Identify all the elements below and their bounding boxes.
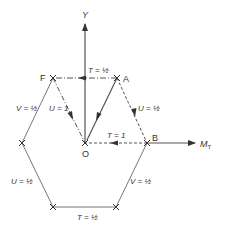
label-b-o: T = 1 bbox=[107, 131, 125, 140]
y-axis-label: Y bbox=[82, 10, 89, 20]
point-label-b: B bbox=[152, 133, 158, 143]
label-right-lower: V = ½ bbox=[130, 177, 151, 186]
arrowhead-a-o bbox=[96, 112, 102, 121]
arrowhead-top bbox=[78, 76, 86, 81]
point-label-a: A bbox=[123, 74, 129, 84]
point-label-f: F bbox=[40, 73, 46, 83]
label-left-upper: V = ½ bbox=[16, 104, 37, 113]
label-right-upper: U = ½ bbox=[138, 104, 160, 113]
point-label-o: O bbox=[82, 149, 89, 159]
hexagon-vector-diagram: Y MT F A O B T = ½ U = ½ V = ½ U = 1 T =… bbox=[0, 0, 226, 233]
label-left-lower: U = ½ bbox=[11, 177, 33, 186]
arrowhead-b-o bbox=[110, 141, 118, 146]
mt-axis-label: MT bbox=[200, 139, 212, 150]
label-top-edge: T = ½ bbox=[88, 66, 109, 75]
label-bottom: T = ½ bbox=[77, 213, 98, 222]
label-f-o: U = 1 bbox=[49, 104, 68, 113]
